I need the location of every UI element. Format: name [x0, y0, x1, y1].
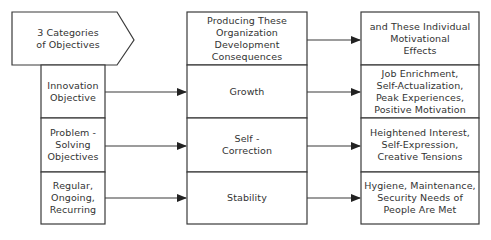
consequence-label-2: Self - Correction: [187, 118, 307, 172]
categories-header-label: 3 Categories of Objectives: [12, 12, 124, 65]
effect-label-3: Hygiene, Maintenance, Security Needs of …: [361, 172, 479, 224]
effects-header-label: and These Individual Motivational Effect…: [361, 12, 479, 65]
effect-label-1: Job Enrichment, Self-Actualization, Peak…: [361, 65, 479, 118]
effect-label-2: Heightened Interest, Self-Expression, Cr…: [361, 118, 479, 172]
objective-label-2: Problem - Solving Objectives: [41, 118, 105, 172]
consequence-label-1: Growth: [187, 65, 307, 118]
consequence-label-3: Stability: [187, 172, 307, 224]
objective-label-3: Regular, Ongoing, Recurring: [41, 172, 105, 224]
consequences-header-label: Producing These Organization Development…: [187, 12, 307, 65]
objective-label-1: Innovation Objective: [41, 65, 105, 118]
